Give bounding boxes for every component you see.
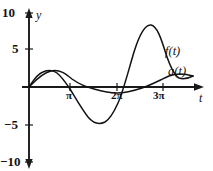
plot-canvas bbox=[0, 0, 213, 171]
y-tick-label-neg5: −5 bbox=[4, 118, 18, 131]
x-tick-label-3pi: 3π bbox=[153, 90, 165, 101]
curve-label-f: f(t) bbox=[165, 45, 180, 58]
curve-label-a: a(t) bbox=[168, 65, 186, 78]
y-tick-label-neg10: −10 bbox=[0, 155, 20, 168]
x-axis-arrow-right bbox=[194, 83, 204, 90]
y-tick-label-5: 5 bbox=[12, 42, 19, 55]
y-axis bbox=[25, 8, 33, 169]
figure-container: 10 5 −5 −10 y t π 2π 3π f(t) a(t) bbox=[0, 0, 213, 171]
y-axis-arrow-down bbox=[25, 159, 32, 169]
y-axis-name-label: y bbox=[36, 9, 41, 21]
y-tick-label-10: 10 bbox=[2, 6, 15, 19]
x-tick-label-pi: π bbox=[66, 90, 72, 101]
x-axis-name-label: t bbox=[199, 92, 202, 104]
x-tick-label-2pi: 2π bbox=[111, 90, 123, 101]
